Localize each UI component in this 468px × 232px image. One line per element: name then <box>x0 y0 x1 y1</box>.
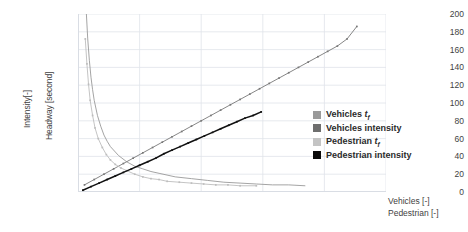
series-marker <box>236 121 238 123</box>
y-axis-tick-label: 100 <box>394 98 468 108</box>
series-marker <box>288 72 290 74</box>
series-marker <box>114 164 116 166</box>
series-marker <box>158 179 160 181</box>
series-marker <box>244 117 246 119</box>
chart-container: Intensity[-] Headway [second] 2001801601… <box>0 0 468 232</box>
y-axis-tick-label: 200 <box>394 9 468 19</box>
plot-svg <box>78 14 386 192</box>
series-marker <box>259 88 261 90</box>
series-marker <box>90 186 92 188</box>
series-marker <box>215 184 217 186</box>
series-marker <box>132 157 134 159</box>
series-marker <box>260 111 262 113</box>
series-marker <box>123 172 125 174</box>
series-line <box>83 112 261 190</box>
series-marker <box>106 179 108 181</box>
series-marker <box>166 180 168 182</box>
series-marker <box>86 63 88 65</box>
series-marker <box>317 56 319 58</box>
series-marker <box>327 51 329 53</box>
legend-item[interactable]: Pedestrian intensity <box>313 149 463 162</box>
series-marker <box>106 154 108 156</box>
series-marker <box>92 115 94 117</box>
series-marker <box>142 176 144 178</box>
series-marker <box>227 184 229 186</box>
series-marker <box>161 141 163 143</box>
series-marker <box>191 182 193 184</box>
legend-swatch-icon <box>313 138 321 146</box>
series-marker <box>171 136 173 138</box>
series-0 <box>86 14 305 186</box>
series-marker <box>220 109 222 111</box>
series-marker <box>155 157 157 159</box>
series-marker <box>101 147 103 149</box>
series-marker <box>249 93 251 95</box>
series-marker <box>103 173 105 175</box>
series-marker <box>230 104 232 106</box>
series-line <box>86 14 305 186</box>
series-marker <box>98 182 100 184</box>
series-marker <box>142 152 144 154</box>
y-axis-tick-label: 160 <box>394 45 468 55</box>
series-marker <box>220 128 222 130</box>
series-marker <box>131 168 133 170</box>
plot-area <box>78 14 386 192</box>
series-marker <box>171 149 173 151</box>
series-marker <box>255 185 257 187</box>
y-axis-tick-label: 120 <box>394 80 468 90</box>
series-marker <box>278 77 280 79</box>
series-marker <box>212 132 214 134</box>
y-axis-tick-label: 20 <box>394 169 468 179</box>
y-axis-tick-label: 180 <box>394 27 468 37</box>
series-marker <box>120 167 122 169</box>
series-marker <box>93 179 95 181</box>
legend-item-label: Pedestrian intensity <box>326 150 412 160</box>
legend-item[interactable]: Vehicles intensity <box>313 122 463 135</box>
legend-item[interactable]: Pedestrian tf <box>313 135 463 148</box>
series-marker <box>97 138 99 140</box>
series-marker <box>94 127 96 129</box>
series-marker <box>110 159 112 161</box>
series-marker <box>210 115 212 117</box>
series-marker <box>114 175 116 177</box>
series-marker <box>356 26 358 28</box>
x-axis-title-pedestrian: Pedestrian [-] <box>388 208 439 218</box>
series-marker <box>152 147 154 149</box>
series-marker <box>204 135 206 137</box>
series-marker <box>203 183 205 185</box>
series-marker <box>179 146 181 148</box>
series-marker <box>200 120 202 122</box>
series-line <box>85 39 256 186</box>
series-marker <box>150 178 152 180</box>
series-marker <box>195 139 197 141</box>
legend-item-label: Vehicles intensity <box>326 123 402 133</box>
series-marker <box>298 67 300 69</box>
series-marker <box>252 115 254 117</box>
series-marker <box>187 142 189 144</box>
legend-swatch-icon <box>313 124 321 132</box>
x-axis-title-vehicles: Vehicles [-] <box>388 196 430 206</box>
y-axis-tick-label: 140 <box>394 62 468 72</box>
series-marker <box>123 163 125 165</box>
series-marker <box>307 61 309 63</box>
series-marker <box>239 99 241 101</box>
series-marker <box>88 83 90 85</box>
legend-swatch-icon <box>313 151 321 159</box>
legend-item-label: Pedestrian tf <box>326 136 380 148</box>
series-marker <box>178 181 180 183</box>
series-marker <box>89 99 91 101</box>
series-marker <box>139 164 141 166</box>
series-marker <box>191 125 193 127</box>
chart-legend: Vehicles tfVehicles intensityPedestrian … <box>313 108 463 162</box>
series-marker <box>337 45 339 47</box>
series-marker <box>181 131 183 133</box>
series-marker <box>113 168 115 170</box>
series-marker <box>163 153 165 155</box>
series-marker <box>84 184 86 186</box>
series-marker <box>239 185 241 187</box>
legend-item[interactable]: Vehicles tf <box>313 108 463 121</box>
legend-item-label: Vehicles tf <box>326 109 370 121</box>
series-marker <box>147 161 149 163</box>
series-marker <box>346 38 348 40</box>
series-3 <box>82 111 262 191</box>
